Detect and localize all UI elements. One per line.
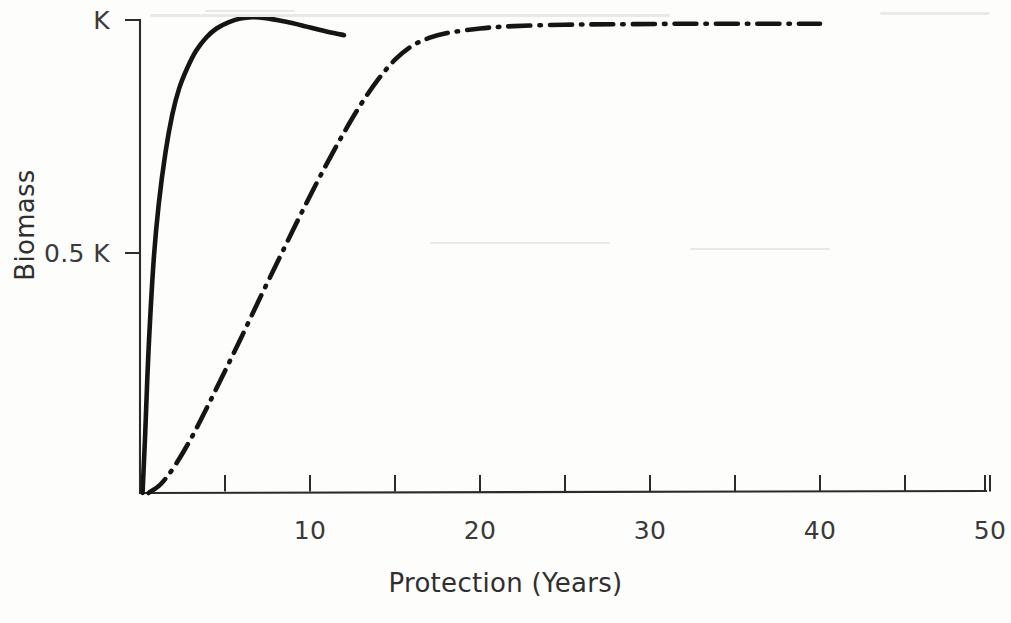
chart-figure: K 0.5 K 1020304050 Protection (Years) Bi… — [0, 0, 1011, 623]
x-axis-line — [140, 491, 986, 493]
y-axis-tick-label-k: K — [60, 6, 110, 35]
chart-plot-area — [0, 0, 1011, 623]
y-axis-title: Biomass — [10, 145, 40, 305]
x-axis-tick-label: 10 — [294, 516, 327, 545]
axes-group — [125, 20, 990, 493]
x-axis-tick-label: 40 — [804, 516, 837, 545]
x-axis-tick-label: 20 — [464, 516, 497, 545]
x-axis-tick-label: 30 — [634, 516, 667, 545]
x-axis-title: Protection (Years) — [0, 568, 1011, 598]
data-series-group — [143, 17, 820, 493]
series-dashdot-line — [149, 24, 821, 493]
x-tick-marks — [225, 475, 990, 492]
series-solid-line — [143, 17, 344, 493]
x-axis-tick-label: 50 — [974, 516, 1007, 545]
y-axis-tick-label-half-k: 0.5 K — [30, 239, 110, 268]
